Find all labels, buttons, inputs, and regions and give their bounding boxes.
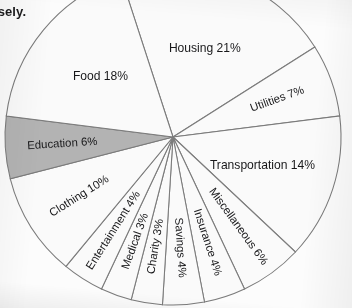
- pie-chart-figure: isely. Housing 21%Utilities 7%Transporta…: [0, 0, 352, 308]
- pie-chart-svg: Housing 21%Utilities 7%Transportation 14…: [0, 0, 352, 308]
- pie-label-transportation: Transportation 14%: [210, 158, 315, 172]
- pie-label-housing: Housing 21%: [169, 41, 241, 55]
- pie-label-food: Food 18%: [73, 69, 128, 83]
